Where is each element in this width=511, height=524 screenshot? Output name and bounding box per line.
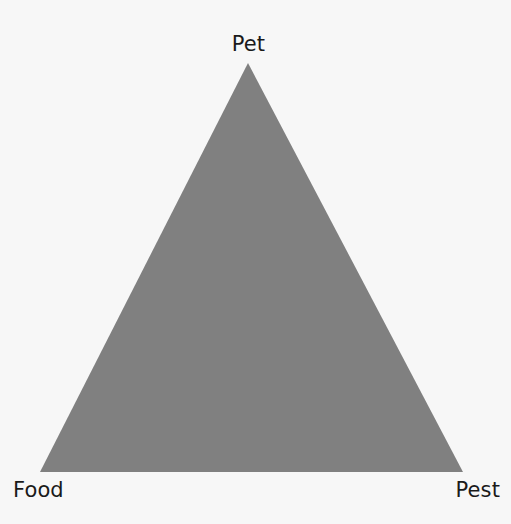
vertex-label-food: Food — [13, 479, 64, 501]
vertex-label-pet: Pet — [0, 33, 497, 55]
triangle-shape-canvas — [0, 0, 511, 524]
vertex-label-pest: Pest — [456, 479, 500, 501]
triangle-diagram: Pet Food Pest — [0, 0, 511, 524]
